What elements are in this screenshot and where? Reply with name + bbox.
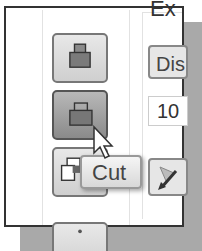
- tooltip-text: Cut: [92, 160, 126, 185]
- paste-button[interactable]: [52, 33, 108, 83]
- mouse-cursor-icon: [92, 125, 116, 161]
- section-title: Ex: [150, 0, 176, 22]
- arrow-resize-icon: [156, 163, 182, 191]
- more-button[interactable]: [52, 222, 108, 251]
- value-input-text: 10: [157, 100, 179, 122]
- more-icon: [54, 224, 106, 251]
- display-button-label: Dis: [156, 53, 185, 75]
- paste-icon: [54, 35, 106, 81]
- value-input[interactable]: 10: [148, 96, 188, 126]
- display-button[interactable]: Dis: [148, 45, 188, 79]
- arrow-resize-button[interactable]: [148, 158, 188, 196]
